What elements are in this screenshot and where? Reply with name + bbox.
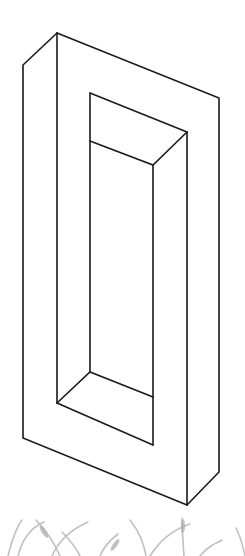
- grass-decoration: [8, 518, 245, 556]
- inner-opening-top: [90, 93, 187, 132]
- outer-top-edge: [57, 33, 219, 505]
- inner-opening-bottom: [57, 403, 153, 445]
- impossible-frame-illustration: [0, 0, 245, 556]
- inner-back-bottom: [57, 372, 153, 403]
- frame-drawing: [0, 0, 245, 556]
- grass-seedheads: [38, 519, 185, 552]
- inner-back-top: [90, 132, 187, 165]
- outer-left-edge: [23, 33, 187, 505]
